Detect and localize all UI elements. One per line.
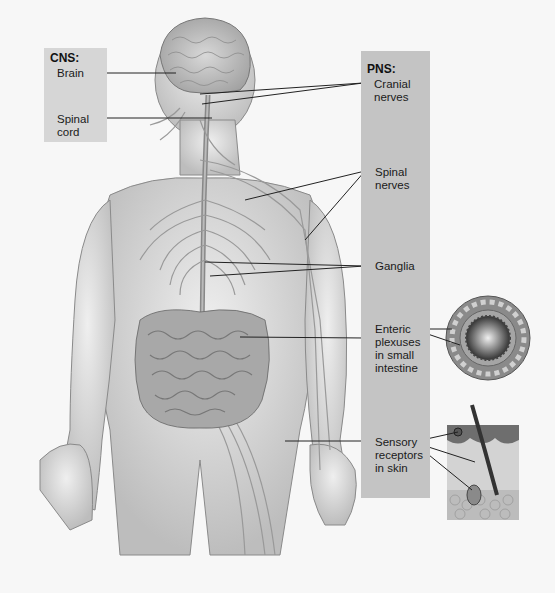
pns-label-box: [361, 51, 430, 498]
brain-illustration: [160, 18, 250, 93]
cns-heading: CNS:: [50, 51, 79, 65]
small-intestine-cross-section: [446, 296, 530, 380]
label-enteric-plexuses: Enteric plexuses in small intestine: [375, 323, 420, 375]
label-spinal-nerves: Spinal nerves: [375, 166, 410, 192]
label-sensory-receptors: Sensory receptors in skin: [375, 436, 423, 475]
label-cranial-nerves: Cranial nerves: [374, 78, 410, 104]
pns-heading: PNS:: [367, 62, 396, 76]
nervous-system-diagram: CNS: Brain Spinal cord PNS: Cranial nerv…: [0, 0, 555, 593]
skin-cross-section: [447, 405, 519, 520]
label-brain: Brain: [57, 67, 84, 80]
label-spinal-cord: Spinal cord: [57, 113, 89, 139]
label-ganglia: Ganglia: [375, 260, 415, 273]
intestines-illustration: [135, 310, 269, 428]
